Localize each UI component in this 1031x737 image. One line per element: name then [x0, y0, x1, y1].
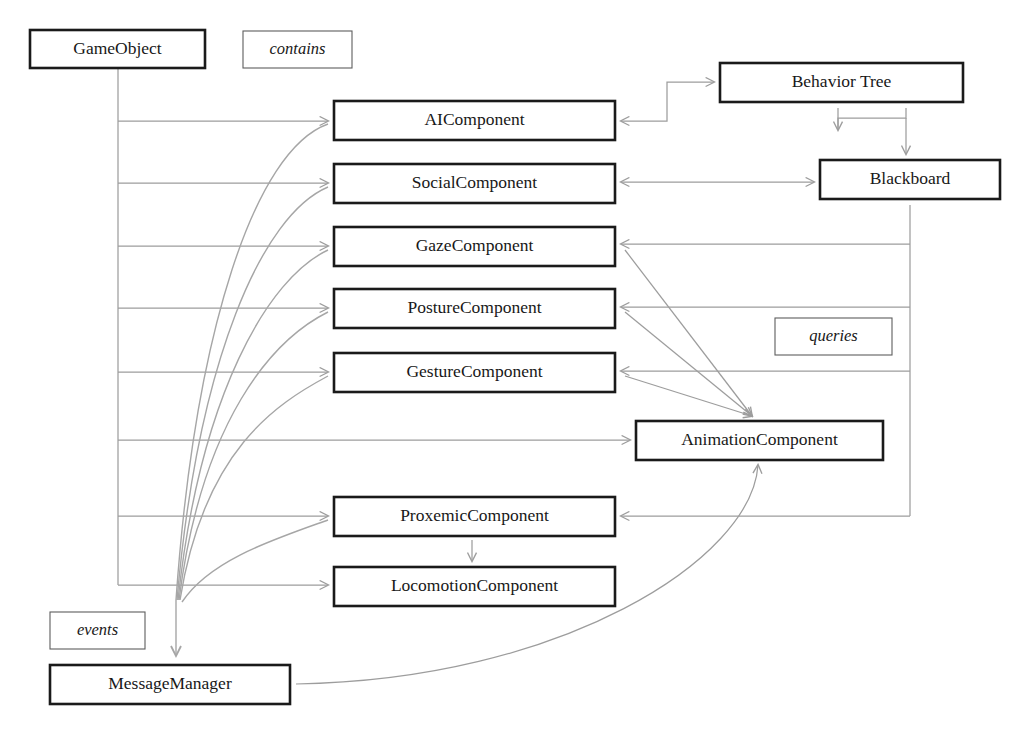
posturecomponent-to-messagemanager-edge	[179, 312, 328, 600]
blackboard-to-behaviortree-edge	[838, 108, 906, 130]
locomotioncomponent-label: LocomotionComponent	[391, 575, 558, 595]
legend-events: events	[50, 612, 145, 649]
node-gesturecomponent[interactable]: GestureComponent	[334, 353, 615, 392]
diagram-root: GameObject AIComponent SocialComponent G…	[0, 0, 1031, 737]
gazecomponent-label: GazeComponent	[416, 235, 534, 255]
blackboard-bus-edge-group	[621, 205, 910, 516]
aicomponent-to-behaviortree-edge	[621, 82, 714, 121]
node-blackboard[interactable]: Blackboard	[820, 160, 1000, 199]
node-socialcomponent[interactable]: SocialComponent	[334, 164, 615, 203]
behaviortree-blackboard-edge-group	[838, 108, 906, 154]
aicomponent-behaviortree-edge-group	[621, 82, 714, 121]
posturecomponent-label: PostureComponent	[407, 297, 541, 317]
gesturecomponent-label: GestureComponent	[406, 361, 542, 381]
node-gazecomponent[interactable]: GazeComponent	[334, 227, 615, 266]
legend-contains: contains	[243, 31, 352, 68]
node-messagemanager[interactable]: MessageManager	[50, 665, 290, 704]
node-locomotioncomponent[interactable]: LocomotionComponent	[334, 567, 615, 606]
legend-queries-label: queries	[809, 326, 858, 345]
animationcomponent-to-gazecomponent-edge	[625, 250, 752, 416]
node-behaviortree[interactable]: Behavior Tree	[720, 63, 963, 102]
gazecomponent-to-messagemanager-edge	[178, 250, 328, 600]
diagram-canvas: GameObject AIComponent SocialComponent G…	[0, 0, 1031, 737]
behaviortree-label: Behavior Tree	[792, 71, 892, 91]
legend-contains-label: contains	[270, 39, 326, 58]
aicomponent-label: AIComponent	[424, 109, 524, 129]
node-animationcomponent[interactable]: AnimationComponent	[636, 421, 883, 460]
animationcomponent-label: AnimationComponent	[681, 429, 838, 449]
socialcomponent-to-messagemanager-edge	[177, 187, 328, 600]
socialcomponent-label: SocialComponent	[412, 172, 538, 192]
blackboard-label: Blackboard	[870, 168, 951, 188]
proxemiccomponent-to-messagemanager-edge	[182, 520, 328, 602]
node-aicomponent[interactable]: AIComponent	[334, 101, 615, 140]
gameobject-label: GameObject	[73, 38, 162, 58]
proxemiccomponent-label: ProxemicComponent	[400, 505, 549, 525]
node-posturecomponent[interactable]: PostureComponent	[334, 289, 615, 328]
node-gameobject[interactable]: GameObject	[30, 30, 205, 68]
messagemanager-label: MessageManager	[108, 673, 232, 693]
legend-events-label: events	[77, 620, 118, 639]
animationcomponent-to-posturecomponent-edge	[625, 312, 752, 416]
node-proxemiccomponent[interactable]: ProxemicComponent	[334, 497, 615, 536]
legend-queries: queries	[775, 318, 892, 355]
animationcomponent-to-gesturecomponent-edge	[625, 376, 752, 416]
animationcomponent-fanout-edge-group	[625, 250, 752, 416]
